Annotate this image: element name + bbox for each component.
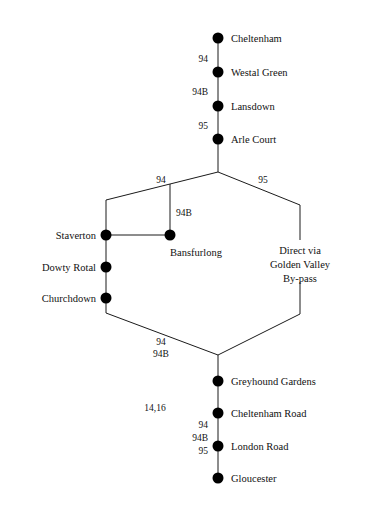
station-node-greyhound-gardens[interactable] [213,376,224,387]
route-number-top-94: 94 [199,54,209,64]
station-node-arle-court[interactable] [213,134,224,145]
route-number-bottom-94b: 94B [192,433,208,443]
station-node-westal-green[interactable] [213,67,224,78]
station-node-bansfurlong[interactable] [165,230,176,241]
station-label-cheltenham: Cheltenham [231,33,282,44]
station-node-london-road[interactable] [213,441,224,452]
station-node-cheltenham[interactable] [213,33,224,44]
station-label-lansdown: Lansdown [231,101,275,112]
station-label-arle-court: Arle Court [231,134,276,145]
station-label-gloucester: Gloucester [231,473,277,484]
branch-note-line-3: By-pass [283,273,317,284]
station-node-dowty-rotal[interactable] [101,262,112,273]
route-number-lower-left-94: 94 [156,337,166,347]
station-label-bansfurlong: Bansfurlong [170,247,223,258]
station-label-dowty-rotal: Dowty Rotal [42,262,96,273]
route-number-top-94b: 94B [192,87,208,97]
station-node-churchdown[interactable] [101,293,112,304]
station-label-churchdown: Churchdown [42,293,97,304]
station-label-cheltenham-road: Cheltenham Road [231,408,307,419]
station-node-lansdown[interactable] [213,101,224,112]
route-diagram: Cheltenham Westal Green Lansdown Arle Co… [0,0,374,522]
route-number-bottom-95: 95 [199,446,209,456]
route-number-branch-left-94: 94 [156,175,166,185]
station-node-gloucester[interactable] [213,473,224,484]
route-number-top-95: 95 [199,121,209,131]
station-label-london-road: London Road [231,441,289,452]
station-label-greyhound-gardens: Greyhound Gardens [231,376,316,387]
branch-note-line-1: Direct via [279,245,321,256]
branch-note-line-2: Golden Valley [270,259,331,270]
route-number-branch-right-95: 95 [258,175,268,185]
route-number-lower-left-94b: 94B [153,349,169,359]
station-label-staverton: Staverton [56,230,97,241]
station-node-staverton[interactable] [101,230,112,241]
route-number-mid-1416: 14,16 [144,403,166,413]
route-number-spur-94b: 94B [176,208,192,218]
station-node-cheltenham-road[interactable] [213,408,224,419]
route-line-branch-left [106,172,218,313]
route-line-converge-right [218,314,300,355]
route-number-bottom-94: 94 [199,420,209,430]
station-label-westal-green: Westal Green [231,67,288,78]
